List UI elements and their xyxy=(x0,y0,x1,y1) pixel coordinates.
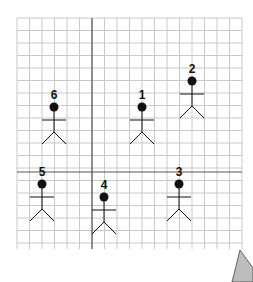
figure-label: 3 xyxy=(176,165,183,179)
figure-label: 6 xyxy=(51,88,58,102)
figure-label: 4 xyxy=(101,178,108,192)
figure-right-leg xyxy=(42,209,54,221)
figure-right-leg xyxy=(179,209,191,221)
figure-head-icon xyxy=(100,193,109,202)
figure-left-leg xyxy=(92,222,104,234)
figure-label: 2 xyxy=(189,62,196,76)
figure-label: 5 xyxy=(39,165,46,179)
figure-head-icon xyxy=(138,103,147,112)
figure-left-leg xyxy=(130,132,142,144)
figure-left-leg xyxy=(167,209,179,221)
figure-right-leg xyxy=(142,132,154,144)
figure-head-icon xyxy=(188,77,197,86)
grid-lines xyxy=(17,18,242,249)
figure-left-leg xyxy=(180,106,192,118)
figure-right-leg xyxy=(54,132,66,144)
figure-right-leg xyxy=(104,222,116,234)
figure-left-leg xyxy=(42,132,54,144)
figure-label: 1 xyxy=(139,88,146,102)
figure-left-leg xyxy=(30,209,42,221)
figure-right-leg xyxy=(192,106,204,118)
figure-head-icon xyxy=(38,180,47,189)
cursor-triangle-icon xyxy=(232,250,253,282)
figure-head-icon xyxy=(175,180,184,189)
coordinate-grid-diagram: 123456 xyxy=(0,0,253,282)
figure-head-icon xyxy=(50,103,59,112)
